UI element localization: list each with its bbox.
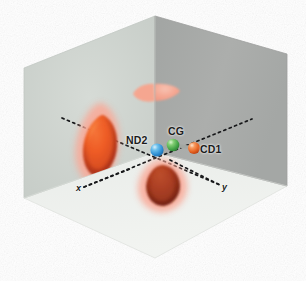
atom-label-cg: CG — [168, 126, 184, 137]
atom-cg[interactable] — [167, 139, 180, 152]
axis-label-x: x — [76, 184, 81, 193]
atom-label-cd1: CD1 — [200, 144, 222, 155]
axis-label-y: y — [222, 183, 227, 192]
figure-container: ND2 CG CD1 x y — [0, 0, 306, 281]
atom-label-nd2: ND2 — [126, 135, 148, 146]
atom-cd1[interactable] — [188, 142, 200, 154]
isometric-density-scene — [0, 0, 306, 281]
atom-nd2[interactable] — [150, 143, 163, 156]
